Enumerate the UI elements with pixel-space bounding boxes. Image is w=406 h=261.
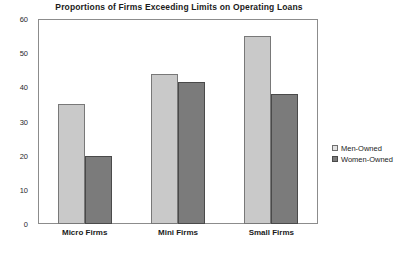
legend-swatch-icon (332, 156, 338, 162)
y-tick-label: 20 (20, 151, 28, 160)
y-tick-label: 60 (20, 15, 28, 24)
y-tick-label: 30 (20, 117, 28, 126)
x-category-label: Mini Firms (158, 228, 198, 237)
chart-legend: Men-OwnedWomen-Owned (332, 143, 404, 165)
legend-label: Women-Owned (341, 155, 393, 164)
legend-swatch-icon (332, 145, 338, 151)
x-axis: Micro FirmsMini FirmsSmall Firms (38, 228, 318, 244)
bars-layer (38, 19, 318, 224)
x-category-label: Micro Firms (62, 228, 107, 237)
bar (58, 104, 85, 224)
bar (271, 94, 298, 224)
bar (85, 156, 112, 224)
legend-item[interactable]: Women-Owned (332, 154, 404, 164)
x-category-label: Small Firms (249, 228, 294, 237)
bar (244, 36, 271, 224)
legend-label: Men-Owned (341, 144, 382, 153)
y-axis: 0102030405060 (0, 19, 34, 224)
chart-title: Proportions of Firms Exceeding Limits on… (48, 2, 310, 12)
y-tick-label: 40 (20, 83, 28, 92)
y-tick-label: 10 (20, 185, 28, 194)
bar (178, 82, 205, 224)
y-tick-label: 0 (24, 220, 28, 229)
bar-chart: Proportions of Firms Exceeding Limits on… (0, 0, 406, 261)
bar (151, 74, 178, 224)
y-tick-label: 50 (20, 49, 28, 58)
legend-item[interactable]: Men-Owned (332, 143, 404, 153)
